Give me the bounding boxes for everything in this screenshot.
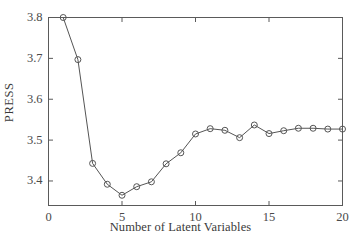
y-tick-label: 3.6 [27,93,43,106]
y-tick-label: 3.4 [27,174,43,187]
press-data-markers [60,15,345,199]
y-tick-label: 3.5 [27,134,43,147]
y-tick-label: 3.7 [27,52,43,65]
axis-tick-marks [49,18,343,206]
plot-border [49,18,343,206]
press-data-line [63,18,342,196]
x-axis-title: Number of Latent Variables [0,221,361,234]
axes-frame [49,18,343,206]
plot-canvas [0,0,361,240]
press-vs-latent-variables-chart: 3.83.73.63.53.4 05101520 Number of Laten… [0,0,361,240]
y-tick-label: 3.8 [27,11,43,24]
y-axis-title: PRESS [3,72,16,132]
